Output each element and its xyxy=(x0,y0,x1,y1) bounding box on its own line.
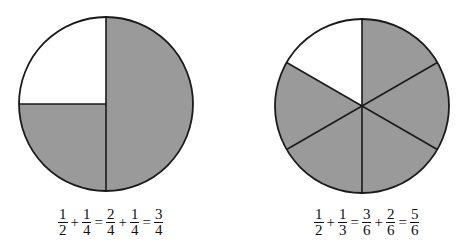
fraction: 12 xyxy=(58,207,68,238)
fraction: 56 xyxy=(410,207,420,238)
fraction: 14 xyxy=(82,207,92,238)
numerator: 1 xyxy=(58,207,68,223)
denominator: 6 xyxy=(386,223,396,238)
numerator: 1 xyxy=(130,207,140,223)
fraction: 12 xyxy=(314,207,324,238)
denominator: 2 xyxy=(314,223,324,238)
right-circle-sixths xyxy=(275,19,449,193)
plus-sign: + xyxy=(71,214,79,231)
numerator: 3 xyxy=(362,207,372,223)
equals-sign: = xyxy=(398,214,406,231)
denominator: 2 xyxy=(58,223,68,238)
equals-sign: = xyxy=(94,214,102,231)
left-equation: 12 + 14 = 24 + 14 = 34 xyxy=(57,202,164,242)
numerator: 1 xyxy=(338,207,348,223)
plus-sign: + xyxy=(327,214,335,231)
plus-sign: + xyxy=(374,214,382,231)
fraction: 24 xyxy=(106,207,116,238)
denominator: 4 xyxy=(154,223,164,238)
numerator: 5 xyxy=(410,207,420,223)
denominator: 4 xyxy=(130,223,140,238)
fraction: 26 xyxy=(386,207,396,238)
denominator: 3 xyxy=(338,223,348,238)
denominator: 4 xyxy=(82,223,92,238)
plus-sign: + xyxy=(118,214,126,231)
numerator: 2 xyxy=(386,207,396,223)
left-circle-quarters xyxy=(19,17,193,191)
denominator: 4 xyxy=(106,223,116,238)
left-circle-unshaded-quarter xyxy=(19,17,106,104)
fraction: 13 xyxy=(338,207,348,238)
fraction: 34 xyxy=(154,207,164,238)
equals-sign: = xyxy=(142,214,150,231)
equals-sign: = xyxy=(350,214,358,231)
denominator: 6 xyxy=(410,223,420,238)
numerator: 1 xyxy=(82,207,92,223)
numerator: 1 xyxy=(314,207,324,223)
numerator: 3 xyxy=(154,207,164,223)
right-equation: 12 + 13 = 36 + 26 = 56 xyxy=(313,202,420,242)
numerator: 2 xyxy=(106,207,116,223)
denominator: 6 xyxy=(362,223,372,238)
fraction: 36 xyxy=(362,207,372,238)
fraction: 14 xyxy=(130,207,140,238)
